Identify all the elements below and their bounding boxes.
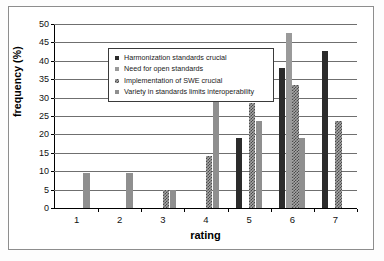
bar [249,103,255,208]
y-tick-label: 35 [39,75,49,84]
y-tick-label: 20 [39,130,49,139]
bar [286,33,292,208]
x-tick-mark [184,209,185,212]
y-tick-mark [51,171,54,172]
bar [236,138,242,208]
gridline [54,116,357,117]
y-tick-label: 15 [39,148,49,157]
y-axis-title: frequency (%) [11,46,23,117]
bar [256,121,262,208]
x-tick-label: 1 [74,215,79,225]
x-tick-mark [271,209,272,212]
x-tick-label: 3 [160,215,165,225]
bar [279,68,285,208]
bar [126,173,132,208]
x-tick-mark [357,209,358,212]
x-tick-mark [141,209,142,212]
x-tick-mark [228,209,229,212]
y-tick-label: 10 [39,167,49,176]
gridline [54,42,357,43]
y-tick-mark [51,61,54,62]
x-tick-mark [98,209,99,212]
legend-item-label: Need for open standards [124,65,203,73]
chart-figure: frequency (%) rating 0510152025303540455… [0,0,384,261]
x-tick-label: 7 [333,215,338,225]
bar [213,85,219,208]
bar [299,138,305,208]
gridline [54,134,357,135]
plot-area: 05101520253035404550 1234567 Harmonizati… [54,24,357,209]
gridline [54,24,357,25]
figure-frame: frequency (%) rating 0510152025303540455… [8,6,374,250]
chart-legend: Harmonization standards crucial Need for… [108,48,274,102]
y-tick-label: 5 [44,185,49,194]
x-tick-label: 4 [203,215,208,225]
y-tick-mark [51,42,54,43]
x-axis-title: rating [54,229,357,241]
y-tick-mark [51,116,54,117]
y-tick-label: 30 [39,93,49,102]
legend-item: Need for open standards [112,64,269,76]
gridline [54,153,357,154]
x-tick-label: 6 [290,215,295,225]
bar [292,85,298,208]
legend-swatch-icon [115,56,119,60]
y-tick-label: 0 [44,204,49,213]
y-tick-mark [51,208,54,209]
y-tick-mark [51,79,54,80]
x-axis-line [54,208,357,209]
legend-swatch-icon [115,79,119,83]
legend-item: Variety in standards limits interoperabi… [112,87,269,99]
bar [206,156,212,208]
x-tick-label: 2 [117,215,122,225]
x-tick-mark [314,209,315,212]
y-tick-label: 50 [39,20,49,29]
x-tick-label: 5 [246,215,251,225]
bar [83,173,89,208]
y-tick-label: 25 [39,112,49,121]
legend-item-label: Harmonization standards crucial [124,54,227,62]
y-tick-label: 45 [39,38,49,47]
legend-swatch-icon [115,90,119,94]
bar [335,121,341,208]
y-tick-mark [51,153,54,154]
y-tick-mark [51,98,54,99]
legend-item: Implementation of SWE crucial [112,75,269,87]
bar [163,190,169,208]
legend-item: Harmonization standards crucial [112,52,269,64]
bar [170,190,176,208]
legend-item-label: Variety in standards limits interoperabi… [124,88,254,96]
y-tick-mark [51,134,54,135]
legend-item-label: Implementation of SWE crucial [124,77,222,85]
y-tick-label: 40 [39,56,49,65]
y-tick-mark [51,24,54,25]
bar [322,51,328,208]
legend-swatch-icon [115,67,119,71]
y-tick-mark [51,190,54,191]
